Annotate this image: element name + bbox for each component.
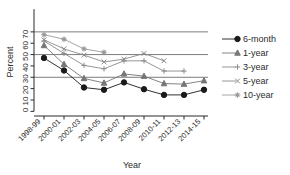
legend-label-3-year: 3-year: [243, 62, 269, 72]
legend-label-6-month: 6-month: [243, 34, 276, 44]
data-point-asterisk: [41, 32, 47, 38]
chart-figure: 0 10 20 30 40 50 60 70 Percent 1998-99 2…: [0, 0, 290, 175]
y-axis-title: Percent: [5, 46, 15, 78]
x-axis-title: Year: [123, 160, 141, 170]
legend-label-10-year: 10-year: [243, 90, 274, 100]
data-point-filled-circle: [141, 87, 146, 92]
data-point-filled-circle: [181, 92, 186, 97]
data-point-asterisk: [81, 46, 87, 52]
y-tick-labels: 0 10 20 30 40 50 60 70: [21, 29, 30, 112]
data-point-filled-circle: [41, 55, 46, 60]
data-point-filled-circle: [101, 87, 106, 92]
data-point-asterisk: [101, 49, 107, 55]
line-chart: 0 10 20 30 40 50 60 70 Percent 1998-99 2…: [0, 0, 290, 175]
data-point-filled-circle: [121, 80, 126, 85]
data-point-filled-circle: [81, 85, 86, 90]
data-point-filled-circle: [161, 92, 166, 97]
data-point-filled-circle: [201, 87, 206, 92]
legend-label-5-year: 5-year: [243, 76, 269, 86]
data-point-filled-circle: [61, 68, 66, 73]
data-point-asterisk: [61, 36, 67, 42]
legend-label-1-year: 1-year: [243, 48, 269, 58]
